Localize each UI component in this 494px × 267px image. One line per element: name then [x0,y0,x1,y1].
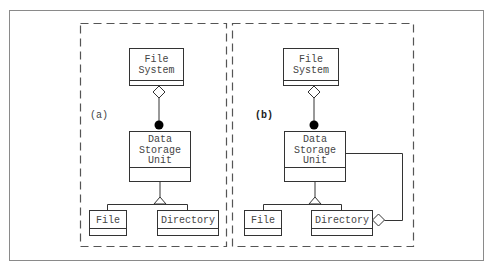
class-file-system: File System [130,49,184,86]
svg-text:File: File [299,54,323,65]
filled-dot-icon [155,121,164,130]
generalization-triangle-icon [154,197,166,204]
class-file: File [245,211,282,236]
svg-text:File: File [144,54,168,65]
panel-a-label: (a) [90,110,108,121]
filled-dot-icon [310,121,319,130]
panel-a: (a) File System Data Storage Unit File [81,24,227,247]
svg-text:File: File [96,215,120,226]
class-file-system: File System [284,49,339,86]
svg-text:Storage: Storage [294,145,336,156]
svg-text:File: File [251,215,275,226]
svg-text:System: System [293,65,329,76]
panel-b: (b) File System Data Storage Unit File [233,24,414,247]
svg-text:Unit: Unit [148,155,172,166]
svg-text:Directory: Directory [161,215,215,226]
class-directory: Directory [312,211,373,236]
uml-diagram: (a) File System Data Storage Unit File [0,0,494,267]
aggregation-diamond-icon [153,86,165,98]
panel-b-label: (b) [255,110,273,121]
svg-text:System: System [138,65,174,76]
svg-text:Directory: Directory [315,215,369,226]
directory-aggregation-diamond-icon [373,214,385,226]
aggregation-diamond-icon [308,86,320,98]
class-directory: Directory [158,211,219,236]
svg-text:Unit: Unit [303,155,327,166]
class-data-storage-unit: Data Storage Unit [285,132,346,182]
svg-text:Data: Data [303,134,327,145]
svg-text:Storage: Storage [139,145,181,156]
class-file: File [90,211,127,236]
class-data-storage-unit: Data Storage Unit [130,132,191,182]
generalization-triangle-icon [309,197,321,204]
svg-text:Data: Data [148,134,172,145]
